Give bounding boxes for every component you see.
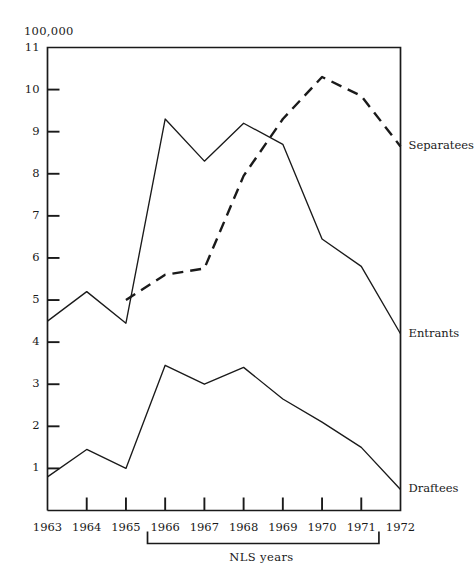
y-axis-ticks <box>48 90 60 469</box>
axis-frame <box>48 48 401 511</box>
y-tick-label: 1 <box>32 460 39 474</box>
data-series-lines <box>48 77 401 489</box>
x-tick-label: 1972 <box>376 520 426 534</box>
series-label-separatees: Separatees <box>409 138 474 152</box>
y-tick-label: 11 <box>25 40 40 54</box>
y-tick-label: 7 <box>32 208 39 222</box>
series-label-entrants: Entrants <box>409 326 460 340</box>
series-line-draftees <box>48 365 401 489</box>
y-tick-label: 3 <box>32 376 39 390</box>
x-axis-caption: NLS years <box>229 550 293 564</box>
y-tick-label: 5 <box>32 292 39 306</box>
y-tick-label: 4 <box>32 334 39 348</box>
y-tick-label: 9 <box>32 124 39 138</box>
y-tick-label: 2 <box>32 418 39 432</box>
x-axis-ticks <box>87 498 362 511</box>
y-tick-label: 6 <box>32 250 39 264</box>
series-label-draftees: Draftees <box>409 481 459 495</box>
series-line-separatees <box>126 77 401 300</box>
series-line-entrants <box>48 119 401 334</box>
y-tick-label: 8 <box>32 166 39 180</box>
y-tick-label: 10 <box>25 82 40 96</box>
